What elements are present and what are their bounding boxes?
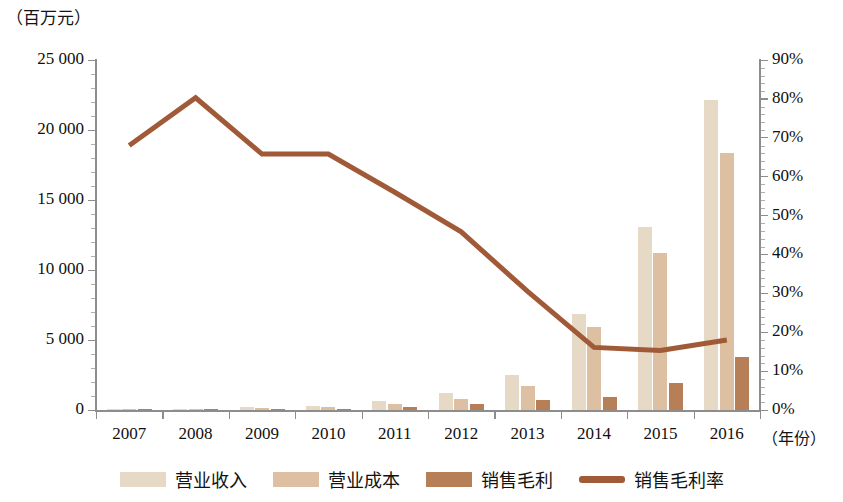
x-tick-mark xyxy=(561,411,562,419)
bar-group-2011 xyxy=(372,60,417,410)
right-tick-mark xyxy=(761,332,768,333)
right-minor-tick xyxy=(761,208,765,209)
bar-group-2009 xyxy=(240,60,285,410)
bar xyxy=(603,397,617,410)
bar xyxy=(306,406,320,410)
right-tick-label: 0% xyxy=(772,399,795,419)
x-tick-label-2015: 2015 xyxy=(625,424,695,444)
x-tick-mark xyxy=(96,411,97,419)
bar xyxy=(720,153,734,410)
right-minor-tick xyxy=(761,231,765,232)
bar-group-2008 xyxy=(173,60,218,410)
right-minor-tick xyxy=(761,402,765,403)
left-minor-tick xyxy=(91,312,95,313)
left-tick-mark xyxy=(88,60,95,61)
right-tick-mark xyxy=(761,215,768,216)
left-tick-label: 5 000 xyxy=(4,329,84,349)
bar xyxy=(189,409,203,411)
bar-group-2015 xyxy=(638,60,683,410)
x-tick-label-2011: 2011 xyxy=(360,424,430,444)
left-tick-label: 0 xyxy=(4,399,84,419)
right-minor-tick xyxy=(761,309,765,310)
bar xyxy=(669,383,683,410)
bar xyxy=(439,393,453,411)
left-minor-tick xyxy=(91,354,95,355)
x-axis-unit-label: （年份） xyxy=(762,425,826,449)
x-tick-mark xyxy=(229,411,230,419)
left-tick-label: 10 000 xyxy=(4,259,84,279)
right-tick-mark xyxy=(761,176,768,177)
left-minor-tick xyxy=(91,116,95,117)
bar xyxy=(255,408,269,410)
right-tick-mark xyxy=(761,293,768,294)
left-minor-tick xyxy=(91,172,95,173)
right-minor-tick xyxy=(761,169,765,170)
right-minor-tick xyxy=(761,278,765,279)
x-tick-label-2009: 2009 xyxy=(227,424,297,444)
legend-item-0[interactable]: 营业收入 xyxy=(120,466,247,492)
right-tick-label: 90% xyxy=(772,49,803,69)
legend-item-3[interactable]: 销售毛利率 xyxy=(579,466,724,492)
x-tick-mark xyxy=(694,411,695,419)
bar xyxy=(138,409,152,411)
right-minor-tick xyxy=(761,114,765,115)
right-tick-mark xyxy=(761,137,768,138)
bar xyxy=(653,253,667,410)
x-tick-label-2013: 2013 xyxy=(493,424,563,444)
bar xyxy=(122,409,136,411)
right-tick-label: 20% xyxy=(772,321,803,341)
bar-group-2012 xyxy=(439,60,484,410)
bar xyxy=(204,409,218,411)
bar xyxy=(704,100,718,410)
legend-label: 销售毛利率 xyxy=(634,466,724,492)
x-tick-mark xyxy=(362,411,363,419)
right-minor-tick xyxy=(761,356,765,357)
left-minor-tick xyxy=(91,242,95,243)
right-tick-label: 30% xyxy=(772,282,803,302)
right-minor-tick xyxy=(761,270,765,271)
left-tick-mark xyxy=(88,270,95,271)
gross-margin-chart: （百万元） （年份） 05 00010 00015 00020 00025 00… xyxy=(0,0,843,502)
x-tick-mark xyxy=(428,411,429,419)
legend-square-swatch-icon xyxy=(120,472,166,487)
legend-item-1[interactable]: 营业成本 xyxy=(273,466,400,492)
bar xyxy=(372,401,386,410)
left-minor-tick xyxy=(91,74,95,75)
right-minor-tick xyxy=(761,317,765,318)
bar xyxy=(536,400,550,411)
right-tick-label: 70% xyxy=(772,127,803,147)
right-tick-mark xyxy=(761,60,768,61)
right-tick-mark xyxy=(761,371,768,372)
left-minor-tick xyxy=(91,396,95,397)
right-minor-tick xyxy=(761,247,765,248)
bar xyxy=(403,407,417,410)
x-tick-label-2008: 2008 xyxy=(161,424,231,444)
x-tick-label-2016: 2016 xyxy=(692,424,762,444)
left-minor-tick xyxy=(91,256,95,257)
bar-group-2010 xyxy=(306,60,351,410)
right-minor-tick xyxy=(761,324,765,325)
left-minor-tick xyxy=(91,382,95,383)
left-minor-tick xyxy=(91,102,95,103)
bar-group-2016 xyxy=(704,60,749,410)
left-tick-mark xyxy=(88,410,95,411)
x-tick-label-2012: 2012 xyxy=(426,424,496,444)
right-minor-tick xyxy=(761,387,765,388)
y-axis-unit-label: （百万元） xyxy=(6,4,91,29)
bar xyxy=(173,409,187,411)
x-tick-mark xyxy=(760,411,761,419)
right-tick-mark xyxy=(761,254,768,255)
left-minor-tick xyxy=(91,284,95,285)
bar-group-2013 xyxy=(505,60,550,410)
x-tick-mark xyxy=(295,411,296,419)
right-tick-label: 10% xyxy=(772,360,803,380)
right-minor-tick xyxy=(761,76,765,77)
x-tick-label-2010: 2010 xyxy=(293,424,363,444)
bar xyxy=(521,386,535,410)
bar xyxy=(587,327,601,410)
legend-item-2[interactable]: 销售毛利 xyxy=(426,466,553,492)
x-tick-label-2014: 2014 xyxy=(559,424,629,444)
right-minor-tick xyxy=(761,394,765,395)
right-minor-tick xyxy=(761,262,765,263)
left-minor-tick xyxy=(91,298,95,299)
